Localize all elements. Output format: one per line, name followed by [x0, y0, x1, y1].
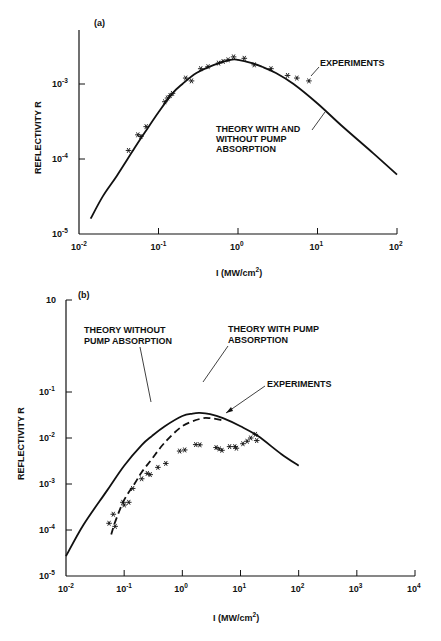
asterisk-marker-icon: [177, 449, 183, 454]
x-tick-label: 10-2: [71, 240, 87, 252]
chart-b-x-label: I (MW/cm2): [213, 611, 259, 623]
asterisk-marker-icon: [294, 76, 300, 81]
x-tick-label: 103: [349, 582, 363, 594]
theory-with-pump-curve: [111, 418, 223, 535]
asterisk-marker-icon: [110, 512, 116, 517]
chart-a-annotation-experiments: EXPERIMENTS: [320, 58, 385, 68]
chart-b-annotation-theory-without-1: THEORY WITHOUT: [84, 325, 166, 335]
chart-a-experiments-pointer: [311, 67, 319, 76]
y-tick-label: 10-4: [52, 152, 68, 164]
asterisk-marker-icon: [240, 441, 246, 446]
x-tick-label: 102: [291, 582, 305, 594]
asterisk-marker-icon: [285, 73, 291, 78]
chart-b-y-ticks: 10-510-410-310-210-110: [39, 295, 72, 581]
arrowhead-icon: [226, 407, 233, 413]
panel-a-label: (a): [94, 18, 105, 28]
chart-a-annotation-theory-3: ABSORPTION: [216, 144, 276, 154]
theory-curve: [66, 413, 299, 556]
chart-a-theory-pointer: [312, 112, 325, 130]
x-tick-label: 104: [407, 582, 421, 594]
asterisk-marker-icon: [126, 500, 132, 505]
chart-b-theory-with-pointer: [203, 346, 228, 382]
asterisk-marker-icon: [155, 465, 161, 470]
asterisk-marker-icon: [197, 442, 203, 447]
chart-b: (b) 10-210-1100101102103104 10-510-410-3…: [16, 290, 421, 623]
y-tick-label: 10-3: [39, 477, 55, 489]
chart-b-annotation-theory-with-2: ABSORPTION: [228, 335, 288, 345]
asterisk-marker-icon: [147, 472, 153, 477]
y-tick-label: 10-2: [39, 431, 55, 443]
asterisk-marker-icon: [248, 436, 254, 441]
figure: (a) 10-210-1100101102 10-510-410-3 REFLE…: [0, 0, 441, 641]
y-tick-label: 10-5: [52, 227, 68, 239]
x-tick-label: 100: [174, 582, 188, 594]
panel-b-label: (b): [78, 290, 90, 300]
chart-b-theory-without-pointer: [140, 347, 151, 402]
y-tick-label: 10-3: [52, 77, 68, 89]
x-tick-label: 102: [389, 240, 403, 252]
x-tick-label: 10-1: [151, 240, 167, 252]
y-tick-label: 10: [46, 295, 56, 305]
y-tick-label: 10-4: [39, 523, 55, 535]
chart-b-annotation-theory-with-1: THEORY WITH PUMP: [228, 324, 319, 334]
asterisk-marker-icon: [139, 476, 145, 481]
chart-a-annotation-theory-1: THEORY WITH AND: [216, 124, 301, 134]
y-tick-label: 10-1: [39, 385, 55, 397]
asterisk-marker-icon: [254, 438, 260, 443]
asterisk-marker-icon: [182, 448, 188, 453]
asterisk-marker-icon: [126, 148, 132, 153]
chart-a-x-ticks: 10-210-1100101102: [71, 228, 403, 252]
chart-b-series: [66, 413, 299, 556]
x-tick-label: 10-2: [58, 582, 74, 594]
asterisk-marker-icon: [227, 444, 233, 449]
asterisk-marker-icon: [106, 521, 112, 526]
asterisk-marker-icon: [306, 78, 312, 83]
chart-a: (a) 10-210-1100101102 10-510-410-3 REFLE…: [33, 18, 403, 278]
x-tick-label: 101: [233, 582, 247, 594]
x-tick-label: 100: [230, 240, 244, 252]
x-tick-label: 101: [310, 240, 324, 252]
chart-b-annotation-experiments: EXPERIMENTS: [267, 379, 332, 389]
x-tick-label: 10-1: [116, 582, 132, 594]
chart-a-y-label: REFLECTIVITY R: [33, 101, 43, 174]
chart-a-y-ticks: 10-510-410-3: [52, 77, 85, 239]
chart-b-annotation-theory-without-2: PUMP ABSORPTION: [84, 336, 172, 346]
chart-b-y-label: REFLECTIVITY R: [16, 407, 26, 480]
asterisk-marker-icon: [189, 78, 195, 83]
chart-a-x-label: I (MW/cm2): [216, 266, 262, 278]
y-tick-label: 10-5: [39, 569, 55, 581]
asterisk-marker-icon: [244, 439, 250, 444]
chart-a-annotation-theory-2: WITHOUT PUMP: [216, 134, 287, 144]
chart-b-x-ticks: 10-210-1100101102103104: [58, 570, 421, 594]
asterisk-marker-icon: [163, 461, 169, 466]
